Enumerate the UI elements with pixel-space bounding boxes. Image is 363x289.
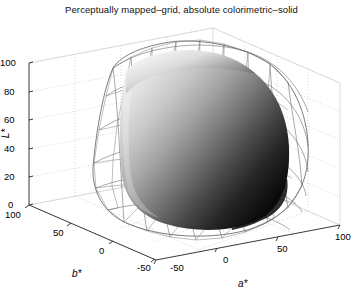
tick-l-40: 40	[4, 143, 15, 154]
axis-label-a-star: a*	[238, 278, 247, 289]
tick-a-100: 100	[335, 231, 351, 242]
tick-b-neg50: -50	[137, 262, 151, 273]
tick-b-50: 50	[53, 227, 64, 238]
tick-l-100: 100	[0, 57, 16, 68]
absolute-colorimetric-solid	[120, 50, 289, 230]
tick-a-50: 50	[277, 243, 288, 254]
tick-b-0: 0	[99, 245, 104, 256]
tick-l-80: 80	[4, 86, 15, 97]
axis-label-b-star: b*	[72, 268, 81, 279]
figure-window: Perceptually mapped–grid, absolute color…	[0, 0, 363, 289]
gamut-3d-plot	[0, 0, 363, 289]
tick-b-100: 100	[5, 209, 21, 220]
tick-l-60: 60	[4, 114, 15, 125]
axis-label-l-star: L*	[0, 129, 11, 138]
tick-l-20: 20	[4, 171, 15, 182]
tick-a-0: 0	[223, 254, 228, 265]
tick-a-neg50: -50	[170, 262, 184, 273]
